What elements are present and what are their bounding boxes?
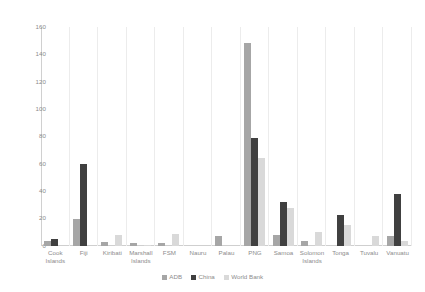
legend-swatch-icon	[191, 275, 196, 280]
category-column	[41, 27, 70, 246]
bar-group	[241, 27, 269, 246]
chart-legend: ADBChinaWorld Bank	[0, 274, 425, 280]
plot-area	[41, 27, 412, 246]
category-column	[70, 27, 99, 246]
bar-group	[184, 27, 212, 246]
x-tick-label: Vanuatu	[383, 249, 412, 265]
x-tick-label: FSM	[155, 249, 184, 265]
bar-adb	[387, 236, 394, 246]
category-column	[355, 27, 384, 246]
x-tick-label: Samoa	[269, 249, 298, 265]
legend-item[interactable]: World Bank	[224, 274, 263, 280]
bar-china	[394, 194, 401, 246]
legend-item[interactable]: ADB	[162, 274, 182, 280]
bar-world-bank	[344, 225, 351, 246]
x-tick-label: PNG	[241, 249, 270, 265]
bar-adb	[273, 235, 280, 246]
bar-group	[98, 27, 126, 246]
legend-item[interactable]: China	[191, 274, 215, 280]
bar-group	[127, 27, 155, 246]
bar-world-bank	[115, 235, 122, 246]
bar-chart: 020406080100120140160 Cook IslandsFijiKi…	[0, 0, 425, 292]
bar-world-bank	[287, 208, 294, 246]
bar-group	[355, 27, 383, 246]
bar-adb	[244, 43, 251, 246]
category-column	[326, 27, 355, 246]
bar-china	[251, 138, 258, 246]
category-column	[269, 27, 298, 246]
bar-group	[269, 27, 297, 246]
legend-swatch-icon	[224, 275, 229, 280]
category-column	[241, 27, 270, 246]
bar-group	[326, 27, 354, 246]
bar-group	[298, 27, 326, 246]
bar-world-bank	[172, 234, 179, 246]
legend-label: World Bank	[231, 274, 263, 280]
bar-adb	[158, 243, 165, 246]
bar-adb	[73, 219, 80, 246]
x-tick-label: Nauru	[184, 249, 213, 265]
bar-group	[212, 27, 240, 246]
legend-label: China	[199, 274, 215, 280]
bar-china	[80, 164, 87, 246]
bar-group	[155, 27, 183, 246]
x-tick-label: Tuvalu	[355, 249, 384, 265]
bar-world-bank	[401, 241, 408, 246]
bar-china	[51, 239, 58, 246]
bar-china	[280, 202, 287, 246]
bar-group	[70, 27, 98, 246]
category-column	[298, 27, 327, 246]
category-column	[212, 27, 241, 246]
bar-world-bank	[372, 236, 379, 246]
bar-world-bank	[258, 158, 265, 246]
category-column	[127, 27, 156, 246]
bar-adb	[301, 241, 308, 246]
legend-swatch-icon	[162, 275, 167, 280]
x-tick-label: Palau	[212, 249, 241, 265]
category-column	[155, 27, 184, 246]
x-tick-label: Marshall Islands	[127, 249, 156, 265]
category-column	[98, 27, 127, 246]
x-tick-label: Solomon Islands	[298, 249, 327, 265]
bar-group	[383, 27, 411, 246]
bar-adb	[130, 243, 137, 246]
bar-adb	[44, 241, 51, 246]
bar-world-bank	[144, 245, 151, 246]
x-tick-label: Cook Islands	[41, 249, 70, 265]
bar-adb	[215, 236, 222, 246]
legend-label: ADB	[169, 274, 182, 280]
category-column	[184, 27, 213, 246]
x-tick-label: Kiribati	[98, 249, 127, 265]
category-column	[383, 27, 412, 246]
bar-group	[41, 27, 69, 246]
x-tick-label: Tonga	[326, 249, 355, 265]
x-tick-label: Fiji	[70, 249, 99, 265]
bar-china	[337, 215, 344, 246]
bar-adb	[101, 242, 108, 246]
x-axis-tick-labels: Cook IslandsFijiKiribatiMarshall Islands…	[41, 249, 412, 265]
bar-world-bank	[315, 232, 322, 246]
